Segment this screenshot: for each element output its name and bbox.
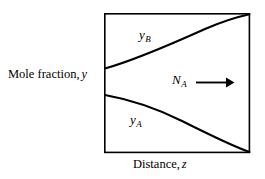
flux-label-n-a-symbol: N xyxy=(172,72,181,87)
curve-label-y-a: yA xyxy=(130,113,142,129)
flux-arrow-head xyxy=(226,78,235,88)
plot-drawing-area xyxy=(0,0,265,179)
x-axis-label-variable: z xyxy=(180,157,187,171)
flux-arrow-right xyxy=(196,78,235,88)
x-axis-label: Distance,z xyxy=(133,158,187,171)
curve-label-y-b-symbol: y xyxy=(139,27,145,42)
curve-y-a xyxy=(105,95,250,152)
curve-y-b xyxy=(105,14,250,68)
flux-label-n-a: NA xyxy=(172,73,187,89)
y-axis-label-variable: y xyxy=(80,67,88,81)
curve-label-y-b-subscript: B xyxy=(145,34,151,44)
curve-label-y-b: yB xyxy=(139,28,151,44)
curve-label-y-a-symbol: y xyxy=(130,112,136,127)
diagram-figure: Mole fraction,y Distance,z yB yA NA xyxy=(0,0,265,179)
flux-label-n-a-subscript: A xyxy=(181,79,187,89)
curve-label-y-a-subscript: A xyxy=(136,119,142,129)
y-axis-label: Mole fraction,y xyxy=(8,68,87,81)
y-axis-label-text: Mole fraction, xyxy=(8,67,80,81)
x-axis-label-text: Distance, xyxy=(133,157,180,171)
